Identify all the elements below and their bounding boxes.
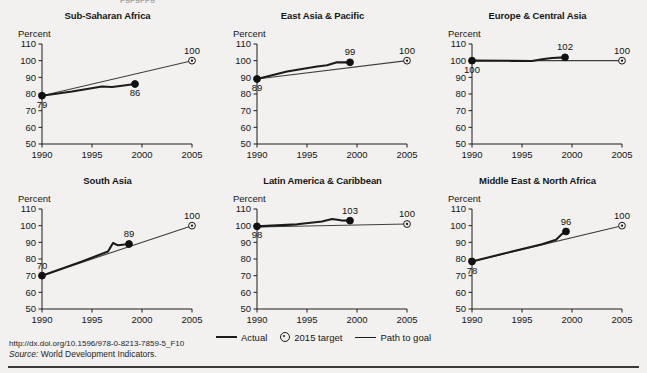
x-tick-label: 1990 [461,149,482,160]
y-tick-label: 90 [455,237,466,248]
target-marker-dot [621,225,623,227]
x-tick-label: 2005 [181,149,202,160]
plot-area: 5060708090100110199019952000200598103100 [215,169,430,334]
x-tick-label: 1995 [296,149,317,160]
doi-link[interactable]: http://dx.doi.org/10.1596/978-0-8213-785… [9,339,409,349]
y-tick-label: 50 [25,138,36,149]
y-tick-label: 60 [455,122,466,133]
source-label: Source: [9,349,38,359]
data-point-marker [562,54,569,61]
x-tick-label: 1995 [81,149,102,160]
data-point-label: 98 [252,229,263,240]
target-marker-dot [406,60,408,62]
y-tick-label: 110 [21,203,36,214]
plot-area: 506070809010011019901995200020058999100 [215,4,430,169]
target-marker-dot [406,223,408,225]
data-point-label: 100 [614,45,630,56]
y-tick-label: 110 [236,203,251,214]
x-tick-label: 1990 [31,149,52,160]
x-tick-label: 1990 [246,314,267,325]
y-tick-label: 60 [455,287,466,298]
y-tick-label: 60 [240,287,251,298]
x-tick-label: 2000 [346,149,367,160]
y-tick-label: 90 [25,72,36,83]
chart-panel: Latin America & CaribbeanPercent50607080… [215,169,430,334]
data-point-label: 78 [467,265,478,276]
y-tick-label: 80 [25,88,36,99]
x-tick-label: 2005 [396,149,417,160]
x-tick-label: 2005 [611,314,632,325]
data-point-label: 89 [124,228,135,239]
series-line [42,243,129,276]
plot-area: 506070809010011019901995200020057089100 [0,169,215,334]
x-tick-label: 1995 [81,314,102,325]
x-tick-label: 1995 [296,314,317,325]
y-tick-label: 50 [25,303,36,314]
y-tick-label: 70 [240,105,251,116]
x-tick-label: 1990 [246,149,267,160]
x-tick-label: 1995 [511,149,532,160]
y-tick-label: 110 [451,38,466,49]
x-tick-label: 1990 [31,314,52,325]
data-point-label: 86 [130,87,141,98]
y-tick-label: 100 [450,220,466,231]
x-tick-label: 1990 [461,314,482,325]
y-tick-label: 70 [455,270,466,281]
y-tick-label: 80 [25,253,36,264]
x-tick-label: 2000 [346,314,367,325]
target-marker-dot [191,225,193,227]
data-point-label: 100 [464,64,480,75]
y-tick-label: 50 [455,303,466,314]
data-point-label: 100 [184,210,200,221]
target-marker-dot [191,60,193,62]
y-tick-label: 90 [240,237,251,248]
x-tick-label: 2000 [561,149,582,160]
x-tick-label: 2005 [611,149,632,160]
chart-panel: Middle East & North AfricaPercent5060708… [430,169,645,334]
target-marker-dot [621,60,623,62]
line-thick-icon [216,336,237,338]
y-tick-label: 50 [240,303,251,314]
x-tick-label: 1995 [511,314,532,325]
series-line-path-to-goal [42,61,192,96]
y-tick-label: 70 [25,105,36,116]
y-tick-label: 60 [25,287,36,298]
data-point-label: 102 [557,41,573,52]
x-tick-label: 2005 [181,314,202,325]
line-thin-icon [355,337,376,338]
x-tick-label: 2000 [131,149,152,160]
y-tick-label: 100 [20,220,36,231]
y-tick-label: 110 [236,38,251,49]
data-point-label: 70 [37,260,48,271]
x-tick-label: 2005 [396,314,417,325]
series-line [42,84,135,96]
data-point-label: 96 [561,216,572,227]
y-tick-label: 80 [240,253,251,264]
plot-area: 506070809010011019901995200020057986100 [0,4,215,169]
chart-panel: Sub-Saharan AfricaPercent506070809010011… [0,4,215,169]
y-tick-label: 50 [455,138,466,149]
y-tick-label: 90 [240,72,251,83]
data-point-marker [563,228,570,235]
data-point-marker [347,217,354,224]
bottom-divider [8,366,639,368]
chart-panel: South AsiaPercent50607080901001101990199… [0,169,215,334]
y-tick-label: 80 [455,88,466,99]
y-tick-label: 90 [25,237,36,248]
data-point-label: 100 [614,210,630,221]
y-tick-label: 100 [20,55,36,66]
source-value: World Development Indicators. [41,349,157,359]
y-tick-label: 80 [240,88,251,99]
y-tick-label: 70 [240,270,251,281]
chart-panel: East Asia & PacificPercent50607080901001… [215,4,430,169]
y-tick-label: 80 [455,253,466,264]
data-point-marker [39,272,46,279]
y-tick-label: 110 [21,38,36,49]
figure-footer: http://dx.doi.org/10.1596/978-0-8213-785… [9,339,409,360]
y-tick-label: 110 [451,203,466,214]
data-point-label: 99 [345,46,356,57]
y-tick-label: 70 [25,270,36,281]
y-tick-label: 100 [235,55,251,66]
data-point-label: 100 [399,208,415,219]
x-tick-label: 2000 [561,314,582,325]
